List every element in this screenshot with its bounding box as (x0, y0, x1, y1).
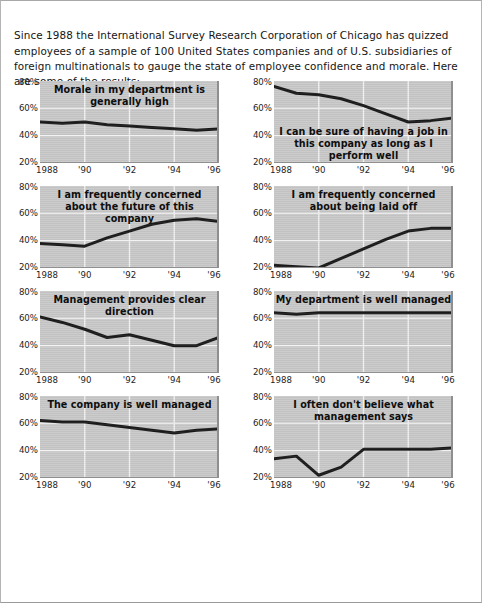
chart-row: 80%60%40%20%Morale in my department is g… (1, 81, 482, 186)
y-axis-tick-label: 80% (10, 182, 38, 192)
chart-grid: 80%60%40%20%Morale in my department is g… (1, 81, 482, 501)
y-axis-tick-label: 20% (10, 157, 38, 167)
plot-svg (40, 186, 219, 268)
plot-area: 80%60%40%20% (274, 81, 453, 163)
x-axis-tick-label: '92 (357, 375, 370, 385)
plot-svg (274, 291, 453, 373)
y-axis-tick-label: 40% (10, 445, 38, 455)
x-axis-tick-label: '96 (207, 375, 220, 385)
y-axis-tick-label: 60% (244, 313, 272, 323)
plot-area: 80%60%40%20% (40, 81, 219, 163)
chart-row: 80%60%40%20%Management provides clear di… (1, 291, 482, 396)
x-axis: 1988'90'92'94'96 (40, 375, 219, 389)
plot-svg (40, 396, 219, 478)
y-axis-tick-label: 60% (10, 103, 38, 113)
x-axis-tick-label: '94 (402, 375, 415, 385)
plot-area: 80%60%40%20% (40, 291, 219, 373)
y-axis-tick-label: 80% (10, 392, 38, 402)
x-axis-tick-label: 1988 (36, 270, 58, 280)
x-axis-tick-label: 1988 (36, 165, 58, 175)
plot-area: 80%60%40%20% (274, 396, 453, 478)
data-series-line (274, 313, 453, 314)
y-axis-tick-label: 20% (10, 472, 38, 482)
x-axis-tick-label: '90 (312, 270, 325, 280)
x-axis-tick-label: '96 (207, 165, 220, 175)
x-axis-tick-label: '94 (168, 375, 181, 385)
chart-panel: 80%60%40%20%Morale in my department is g… (14, 81, 219, 181)
y-axis-tick-label: 20% (10, 367, 38, 377)
y-axis-tick-label: 40% (244, 235, 272, 245)
plot-background (274, 186, 453, 268)
y-axis-tick-label: 40% (10, 235, 38, 245)
y-axis-tick-label: 80% (244, 392, 272, 402)
x-axis-tick-label: '92 (123, 480, 136, 490)
y-axis-tick-label: 60% (10, 208, 38, 218)
y-axis-tick-label: 60% (244, 208, 272, 218)
plot-svg (274, 396, 453, 478)
y-axis-tick-label: 80% (10, 287, 38, 297)
chart-row: 80%60%40%20%The company is well managed1… (1, 396, 482, 501)
chart-panel: 80%60%40%20%The company is well managed1… (14, 396, 219, 496)
plot-svg (274, 186, 453, 268)
chart-panel: 80%60%40%20%Management provides clear di… (14, 291, 219, 391)
y-axis-tick-label: 40% (244, 340, 272, 350)
x-axis-tick-label: '96 (207, 270, 220, 280)
plot-svg (40, 81, 219, 163)
x-axis-tick-label: '96 (441, 165, 454, 175)
y-axis-tick-label: 40% (244, 445, 272, 455)
y-axis-tick-label: 80% (244, 182, 272, 192)
plot-background (274, 291, 453, 373)
plot-area: 80%60%40%20% (274, 186, 453, 268)
x-axis-tick-label: '90 (78, 270, 91, 280)
y-axis-tick-label: 80% (244, 77, 272, 87)
y-axis-tick-label: 60% (10, 313, 38, 323)
x-axis-tick-label: 1988 (270, 270, 292, 280)
chart-panel: 80%60%40%20%I am frequently concerned ab… (248, 186, 453, 286)
plot-background (40, 81, 219, 163)
x-axis-tick-label: 1988 (270, 165, 292, 175)
x-axis-tick-label: '94 (402, 165, 415, 175)
plot-svg (274, 81, 453, 163)
x-axis: 1988'90'92'94'96 (274, 480, 453, 494)
x-axis-tick-label: '96 (441, 270, 454, 280)
survey-results-page: Since 1988 the International Survey Rese… (0, 0, 482, 603)
y-axis-tick-label: 80% (10, 77, 38, 87)
x-axis-tick-label: '90 (312, 165, 325, 175)
chart-panel: 80%60%40%20%I am frequently concerned ab… (14, 186, 219, 286)
x-axis-tick-label: '96 (207, 480, 220, 490)
x-axis-tick-label: 1988 (270, 375, 292, 385)
x-axis-tick-label: '94 (402, 270, 415, 280)
y-axis-tick-label: 20% (10, 262, 38, 272)
y-axis-tick-label: 80% (244, 287, 272, 297)
x-axis-tick-label: '92 (123, 375, 136, 385)
x-axis-tick-label: '90 (312, 375, 325, 385)
x-axis: 1988'90'92'94'96 (274, 165, 453, 179)
x-axis-tick-label: '92 (357, 165, 370, 175)
x-axis-tick-label: 1988 (36, 480, 58, 490)
y-axis-tick-label: 40% (10, 340, 38, 350)
plot-background (40, 186, 219, 268)
x-axis: 1988'90'92'94'96 (274, 270, 453, 284)
y-axis-tick-label: 60% (10, 418, 38, 428)
y-axis-tick-label: 20% (244, 367, 272, 377)
x-axis-tick-label: '92 (123, 165, 136, 175)
x-axis-tick-label: '94 (168, 165, 181, 175)
x-axis-tick-label: '96 (441, 480, 454, 490)
x-axis-tick-label: '94 (168, 270, 181, 280)
x-axis: 1988'90'92'94'96 (40, 270, 219, 284)
x-axis-tick-label: '92 (357, 480, 370, 490)
x-axis-tick-label: '94 (168, 480, 181, 490)
y-axis-tick-label: 60% (244, 103, 272, 113)
chart-panel: 80%60%40%20%I can be sure of having a jo… (248, 81, 453, 181)
y-axis-tick-label: 60% (244, 418, 272, 428)
x-axis-tick-label: '90 (78, 480, 91, 490)
plot-background (40, 291, 219, 373)
x-axis-tick-label: '96 (441, 375, 454, 385)
plot-area: 80%60%40%20% (40, 186, 219, 268)
plot-background (274, 81, 453, 163)
y-axis-tick-label: 20% (244, 262, 272, 272)
plot-area: 80%60%40%20% (274, 291, 453, 373)
y-axis-tick-label: 20% (244, 472, 272, 482)
x-axis-tick-label: '90 (78, 165, 91, 175)
x-axis-tick-label: '92 (357, 270, 370, 280)
